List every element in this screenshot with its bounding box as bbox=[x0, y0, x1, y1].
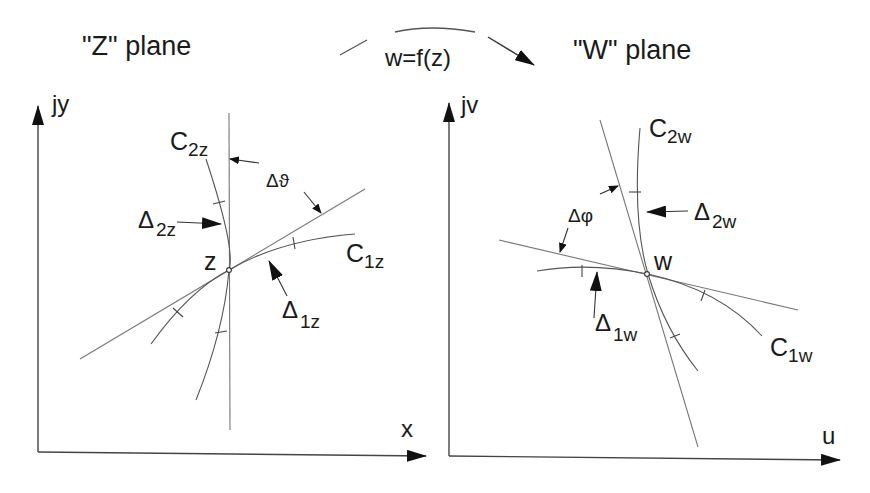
z-plane: jy x z C2z C1z Δ2z Δ1z Δϑ bbox=[38, 90, 426, 456]
c2z-label: C2z bbox=[170, 127, 208, 160]
delta-2w-label: Δ2w bbox=[694, 198, 737, 232]
z-point-label: z bbox=[204, 247, 217, 275]
w-point-label: w bbox=[653, 247, 673, 275]
z-x-axis-label: x bbox=[401, 415, 413, 442]
z-point bbox=[227, 268, 232, 273]
delta-1w-label: Δ1w bbox=[595, 309, 638, 345]
w-plane-title: "W" plane bbox=[573, 35, 691, 65]
delta-phi-label: Δφ bbox=[568, 205, 593, 226]
delta-2w-arrow bbox=[647, 211, 688, 212]
w-point bbox=[645, 272, 650, 277]
delta-theta-label: Δϑ bbox=[266, 170, 290, 191]
z-plane-title: "Z" plane bbox=[82, 31, 191, 61]
w-u-axis-label: u bbox=[822, 422, 835, 449]
z-y-axis-label: jy bbox=[51, 90, 69, 117]
conformal-mapping-diagram: "Z" plane "W" plane w=f(z) jy x z C2z C1… bbox=[0, 0, 870, 493]
c1w-label: C1w bbox=[770, 333, 813, 366]
w-plane: jv u w C2w C1w Δ2w Δ1w Δφ bbox=[449, 91, 840, 460]
delta-1z-label: Δ1z bbox=[282, 296, 320, 332]
z-curve-c1 bbox=[151, 234, 355, 344]
c1z-label: C1z bbox=[346, 239, 384, 272]
w-u-axis bbox=[449, 456, 840, 460]
delta-2z-label: Δ2z bbox=[138, 206, 176, 240]
angle-arrow-lower-w bbox=[560, 228, 568, 252]
delta-2z-arrow bbox=[177, 222, 221, 224]
w-v-axis-label: jv bbox=[460, 91, 478, 118]
delta-1z-arrow bbox=[269, 261, 287, 296]
c2w-label: C2w bbox=[649, 114, 692, 147]
angle-arrow-lower bbox=[304, 192, 321, 213]
mapping-function-label: w=f(z) bbox=[384, 44, 451, 71]
z-x-axis bbox=[38, 452, 426, 456]
angle-arrow-upper bbox=[230, 159, 259, 163]
angle-arrow-upper-w bbox=[600, 186, 618, 194]
